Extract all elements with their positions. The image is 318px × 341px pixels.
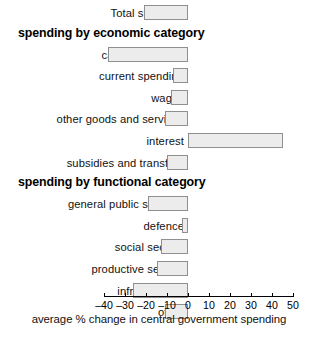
x-tick — [293, 293, 294, 297]
chart-row: social sectors — [0, 236, 318, 258]
x-tick — [104, 293, 105, 297]
bar — [161, 239, 188, 254]
x-tick-label: 10 — [203, 299, 215, 311]
x-tick — [230, 293, 231, 297]
x-tick — [125, 293, 126, 297]
bar-label: defence — [143, 215, 184, 237]
chart-row: capital spending — [0, 44, 318, 66]
x-axis-line — [104, 296, 293, 297]
bar — [171, 90, 188, 105]
bar — [182, 218, 188, 233]
x-tick — [272, 293, 273, 297]
bar-label: interest — [147, 130, 185, 152]
x-tick-label: –40 — [95, 299, 113, 311]
x-tick — [188, 293, 189, 297]
x-tick — [167, 293, 168, 297]
bar — [144, 5, 188, 20]
x-tick-label: 50 — [287, 299, 299, 311]
x-tick-label: –10 — [158, 299, 176, 311]
x-tick-label: –20 — [137, 299, 155, 311]
x-tick-label: –30 — [116, 299, 134, 311]
bar — [188, 133, 283, 148]
x-tick-label: 30 — [245, 299, 257, 311]
bar — [173, 68, 188, 83]
bar — [108, 47, 188, 62]
x-tick-label: 0 — [185, 299, 191, 311]
x-tick-label: 20 — [224, 299, 236, 311]
bar — [167, 155, 188, 170]
chart-row: productive sectors — [0, 258, 318, 280]
chart-row: general public services — [0, 193, 318, 215]
chart-row: other goods and services — [0, 108, 318, 130]
chart-row: wages — [0, 87, 318, 109]
chart-row: subsidies and transfers — [0, 152, 318, 174]
bar — [157, 261, 189, 276]
bar — [148, 196, 188, 211]
section-heading-1: spending by economic category — [18, 26, 204, 40]
chart-row: defence — [0, 215, 318, 237]
chart-row: Total spending — [0, 2, 318, 24]
x-tick — [209, 293, 210, 297]
x-tick-label: 40 — [266, 299, 278, 311]
bar — [165, 111, 188, 126]
section-heading-2: spending by functional category — [18, 175, 206, 189]
x-axis-title: average % change in central government s… — [0, 313, 318, 325]
chart-row: current spending — [0, 65, 318, 87]
bar-chart: Total spendingcapital spendingcurrent sp… — [0, 0, 318, 341]
bar-label: current spending — [99, 65, 184, 87]
x-tick — [251, 293, 252, 297]
chart-row: interest — [0, 130, 318, 152]
x-tick — [146, 293, 147, 297]
